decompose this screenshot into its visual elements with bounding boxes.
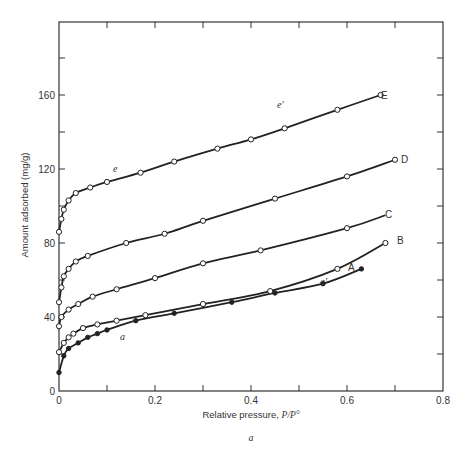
data-point-A xyxy=(62,354,66,358)
curve-A xyxy=(59,269,361,373)
data-point-C xyxy=(200,261,205,266)
data-point-D xyxy=(162,231,167,236)
data-point-A xyxy=(76,341,80,345)
data-point-A xyxy=(172,311,176,315)
x-tick-label: 0.6 xyxy=(340,395,354,406)
data-point-A xyxy=(230,300,234,304)
y-tick-label: 160 xyxy=(38,90,55,101)
data-point-D xyxy=(85,253,90,258)
data-point-B xyxy=(268,289,273,294)
data-point-D xyxy=(124,240,129,245)
data-point-E xyxy=(248,137,253,142)
y-tick-label: 0 xyxy=(49,386,55,397)
data-point-C xyxy=(152,276,157,281)
data-point-A xyxy=(86,335,90,339)
data-point-E xyxy=(88,185,93,190)
data-point-D xyxy=(66,266,71,271)
data-point-B xyxy=(114,318,119,323)
data-point-E xyxy=(61,207,66,212)
x-axis-title: Relative pressure, P/P° xyxy=(202,409,299,420)
data-point-markers xyxy=(56,92,397,374)
data-point-B xyxy=(200,301,205,306)
data-point-C xyxy=(59,314,64,319)
data-point-A xyxy=(105,328,109,332)
data-point-D xyxy=(61,274,66,279)
data-point-E xyxy=(56,229,61,234)
x-tick-label: 0 xyxy=(56,395,62,406)
curve-label-B: B xyxy=(397,235,404,246)
data-point-B xyxy=(143,313,148,318)
axis-tick-labels: 00.20.40.60.804080120160 xyxy=(38,90,450,406)
data-point-B xyxy=(95,322,100,327)
data-point-C xyxy=(56,324,61,329)
curve-label-C: C xyxy=(385,209,392,220)
data-point-E xyxy=(172,159,177,164)
data-point-E xyxy=(66,198,71,203)
x-tick-label: 0.4 xyxy=(244,395,258,406)
data-point-C xyxy=(90,294,95,299)
data-point-B xyxy=(66,335,71,340)
data-point-C xyxy=(76,301,81,306)
data-point-D xyxy=(392,157,397,162)
data-point-B xyxy=(335,266,340,271)
annotation-a-prime: a' xyxy=(320,276,328,287)
data-point-B xyxy=(383,240,388,245)
x-tick-label: 0.2 xyxy=(148,395,162,406)
data-point-E xyxy=(73,190,78,195)
data-point-C xyxy=(258,248,263,253)
data-point-B xyxy=(80,326,85,331)
x-tick-label: 0.8 xyxy=(436,395,450,406)
data-point-D xyxy=(344,174,349,179)
data-point-E xyxy=(282,126,287,131)
y-axis-title: Amount adsorbed (mg/g) xyxy=(19,152,30,257)
data-point-D xyxy=(56,300,61,305)
adsorption-isotherm-chart: 00.20.40.60.804080120160 Amount adsorbed… xyxy=(0,0,466,450)
annotation-e: e xyxy=(113,163,118,174)
data-point-E xyxy=(138,170,143,175)
curve-E xyxy=(59,95,381,232)
data-point-A xyxy=(134,319,138,323)
data-point-B xyxy=(61,340,66,345)
curve-label-A: A xyxy=(348,262,355,273)
data-point-C xyxy=(114,287,119,292)
curve-label-D: D xyxy=(401,154,408,165)
data-point-B xyxy=(56,350,61,355)
annotation-a: a xyxy=(120,331,125,342)
data-point-E xyxy=(104,179,109,184)
y-tick-label: 80 xyxy=(44,238,56,249)
data-point-E xyxy=(335,107,340,112)
data-point-A xyxy=(66,346,70,350)
x-axis-title-text: Relative pressure, xyxy=(202,409,281,420)
y-tick-label: 40 xyxy=(44,312,56,323)
data-point-A xyxy=(359,267,363,271)
curve-label-E: E xyxy=(381,90,388,101)
data-point-C xyxy=(66,307,71,312)
data-point-D xyxy=(200,218,205,223)
data-point-E xyxy=(59,216,64,221)
x-axis-title-math: P/P° xyxy=(281,410,300,420)
data-point-C xyxy=(344,226,349,231)
data-point-D xyxy=(272,196,277,201)
data-point-A xyxy=(273,291,277,295)
annotation-e-prime: e' xyxy=(277,99,284,110)
data-point-A xyxy=(95,331,99,335)
data-point-A xyxy=(57,370,61,374)
data-point-D xyxy=(59,285,64,290)
data-point-E xyxy=(215,146,220,151)
figure-caption: a xyxy=(249,432,254,443)
data-point-B xyxy=(71,331,76,336)
y-tick-label: 120 xyxy=(38,164,55,175)
data-point-D xyxy=(73,259,78,264)
